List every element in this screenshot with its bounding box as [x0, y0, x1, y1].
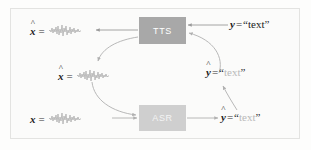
y-text-symbol: y	[230, 18, 235, 30]
edge-xhat-middle-to-asr	[92, 82, 136, 115]
figure-canvas: TTS ASR ^ x = ^ x = x =	[0, 0, 311, 150]
y-hat-bottom-quote-close: ”	[256, 111, 261, 123]
y-hat-bottom-equals: =	[226, 111, 234, 123]
y-text-quote-close: ”	[265, 18, 270, 30]
x-hat-middle-equals: =	[64, 70, 76, 82]
y-hat-bottom-symbol: ^ y	[221, 111, 226, 123]
y-hat-middle-symbol: ^ y	[206, 66, 211, 78]
x-bottom-symbol: x	[30, 113, 36, 125]
y-hat-middle-hat: ^	[206, 60, 211, 69]
waveform-icon	[48, 111, 82, 127]
x-bottom-equals: =	[36, 113, 48, 125]
tts-node[interactable]: TTS	[139, 17, 186, 44]
label-y-text: y = “ text ”	[230, 18, 269, 30]
x-hat-top-hat: ^	[30, 19, 36, 28]
x-hat-top-equals: =	[36, 25, 48, 37]
y-hat-middle-quote-close: ”	[241, 66, 246, 78]
asr-node-label: ASR	[152, 113, 172, 123]
asr-node[interactable]: ASR	[139, 105, 186, 131]
y-hat-middle-value: text	[224, 66, 241, 78]
x-hat-top-symbol: ^ x	[30, 25, 36, 37]
y-text-equals: =	[235, 18, 243, 30]
y-hat-bottom-value: text	[239, 111, 256, 123]
y-text-value: text	[248, 18, 265, 30]
x-hat-middle-hat: ^	[58, 64, 64, 73]
waveform-icon	[48, 23, 82, 39]
label-x-bottom: x =	[30, 111, 82, 127]
label-x-hat-middle: ^ x =	[58, 68, 110, 84]
edge-tts-to-xhat-middle	[98, 37, 138, 61]
tts-node-label: TTS	[153, 26, 172, 36]
label-y-hat-bottom: ^ y = “ text ”	[221, 111, 260, 123]
x-hat-middle-symbol: ^ x	[58, 70, 64, 82]
y-hat-middle-equals: =	[211, 66, 219, 78]
waveform-icon	[76, 68, 110, 84]
y-hat-bottom-hat: ^	[221, 105, 226, 114]
label-x-hat-top: ^ x =	[30, 23, 82, 39]
label-y-hat-middle: ^ y = “ text ”	[206, 66, 245, 78]
